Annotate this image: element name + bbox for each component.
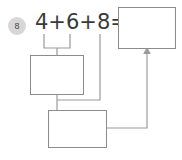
equation-text: 4+6+8= xyxy=(35,10,128,34)
arrow-partial-sum-box-2-to-answer-box xyxy=(107,53,147,128)
worksheet-canvas: 8 4+6+8= xyxy=(0,0,182,160)
bracket-under-4-plus-6 xyxy=(44,34,70,48)
problem-number-badge: 8 xyxy=(8,17,26,35)
answer-box[interactable] xyxy=(118,7,176,49)
partial-sum-box-1[interactable] xyxy=(30,55,84,95)
partial-sum-box-2[interactable] xyxy=(48,110,107,148)
